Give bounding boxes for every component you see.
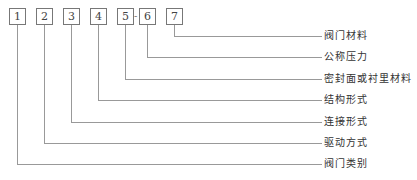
code-box-7: 7 (166, 8, 183, 25)
leader-horizontal-3 (71, 122, 322, 123)
leader-horizontal-1 (17, 164, 322, 165)
code-box-5: 5 (117, 8, 134, 25)
label-structure-type: 结构形式 (324, 94, 368, 106)
leader-horizontal-4 (98, 100, 322, 101)
leader-vertical-3 (71, 25, 72, 123)
leader-horizontal-6 (147, 57, 322, 58)
code-box-2: 2 (36, 8, 53, 25)
leader-horizontal-2 (44, 143, 322, 144)
label-seal-lining-material: 密封面或衬里材料 (324, 73, 412, 85)
leader-vertical-5 (125, 25, 126, 80)
leader-vertical-4 (98, 25, 99, 101)
leader-horizontal-7 (174, 36, 322, 37)
label-nominal-pressure: 公称压力 (324, 51, 368, 63)
leader-horizontal-5 (125, 79, 322, 80)
separator-dash: - (134, 8, 137, 24)
label-drive-type: 驱动方式 (324, 137, 368, 149)
label-connection-type: 连接形式 (324, 116, 368, 128)
code-box-4: 4 (90, 8, 107, 25)
code-box-1: 1 (9, 8, 26, 25)
code-box-6: 6 (139, 8, 156, 25)
leader-vertical-1 (17, 25, 18, 165)
label-valve-category: 阀门类别 (324, 158, 368, 170)
label-valve-material: 阀门材料 (324, 30, 368, 42)
leader-vertical-2 (44, 25, 45, 144)
leader-vertical-6 (147, 25, 148, 58)
code-box-3: 3 (63, 8, 80, 25)
